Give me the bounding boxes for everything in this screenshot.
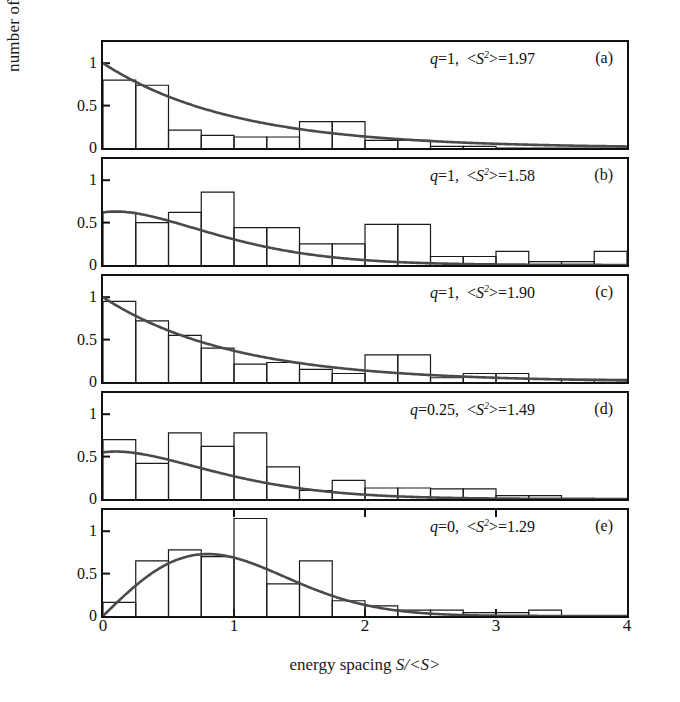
panel-annotation: q=0.25, <S2>=1.49 — [410, 400, 535, 419]
x-axis-label-symbol: S/<S> — [396, 655, 441, 674]
histogram-bar — [365, 355, 398, 382]
histogram-bar — [398, 355, 431, 382]
panel-plot-area — [103, 393, 627, 499]
plot-panel-a: q=1, <S2>=1.97(a) — [101, 40, 629, 150]
panel-annotation: q=1, <S2>=1.97 — [430, 49, 535, 68]
histogram-bar — [300, 122, 333, 148]
histogram-bar — [201, 348, 234, 382]
histogram-bar — [463, 146, 496, 148]
histogram-bar — [431, 146, 464, 148]
histogram-bar — [234, 137, 267, 148]
y-tick-label: 0 — [59, 256, 97, 274]
histogram-bar — [201, 192, 234, 265]
histogram-bar — [267, 137, 300, 148]
y-tick-label: 1 — [59, 54, 97, 72]
y-tick-label: 1 — [59, 288, 97, 306]
histogram-bar — [267, 228, 300, 265]
y-tick-label: 1 — [59, 171, 97, 189]
annotation-s2-symbol: <S2> — [467, 50, 498, 67]
panel-plot-area — [103, 159, 627, 265]
y-tick-labels: 00.51 — [55, 508, 97, 618]
y-tick-label: 0 — [59, 139, 97, 157]
plot-panel-e: q=0, <S2>=1.29(e) — [101, 508, 629, 618]
y-tick-label: 0 — [59, 490, 97, 508]
histogram-bar — [234, 433, 267, 499]
histogram-bar — [234, 364, 267, 382]
annotation-q-value: =0.25, — [418, 401, 467, 418]
histogram-bar — [267, 362, 300, 382]
plot-panel-d: q=0.25, <S2>=1.49(d) — [101, 391, 629, 501]
histogram-bar — [496, 251, 529, 265]
histogram-bar — [103, 602, 136, 616]
plot-panel-c: q=1, <S2>=1.90(c) — [101, 274, 629, 384]
annotation-s2-value: =1.97 — [498, 50, 535, 67]
histogram-bar — [267, 584, 300, 616]
annotation-s2-symbol: <S2> — [467, 401, 498, 418]
annotation-q-symbol: q — [430, 50, 438, 67]
y-tick-label: 0.5 — [59, 448, 97, 466]
annotation-q-value: =1, — [438, 50, 467, 67]
histogram-bars — [103, 518, 627, 616]
x-tick-label: 3 — [492, 616, 501, 636]
annotation-s2-value: =1.49 — [498, 401, 535, 418]
histogram-bar — [332, 244, 365, 265]
panel-tag: (a) — [595, 49, 613, 67]
panel-annotation: q=1, <S2>=1.90 — [430, 283, 535, 302]
histogram-bar — [300, 369, 333, 382]
histogram-bar — [332, 374, 365, 382]
annotation-q-symbol: q — [430, 167, 438, 184]
y-tick-label: 1 — [59, 405, 97, 423]
y-tick-labels: 00.51 — [55, 391, 97, 501]
x-axis-label: energy spacing S/<S> — [101, 655, 629, 675]
annotation-q-symbol: q — [430, 284, 438, 301]
histogram-bar — [201, 557, 234, 616]
histogram-bar — [431, 378, 464, 382]
annotation-q-symbol: q — [430, 518, 438, 535]
panel-plot-area — [103, 42, 627, 148]
panel-tag: (e) — [595, 517, 613, 535]
x-tick-label: 0 — [99, 616, 108, 636]
histogram-bars — [103, 192, 627, 265]
annotation-s2-value: =1.90 — [498, 284, 535, 301]
plot-panel-b: q=1, <S2>=1.58(b) — [101, 157, 629, 267]
histogram-bar — [103, 80, 136, 148]
histogram-bar — [169, 130, 202, 148]
histogram-bar — [300, 561, 333, 616]
histogram-bar — [136, 321, 169, 382]
annotation-s2-symbol: <S2> — [467, 284, 498, 301]
panel-plot-area — [103, 510, 627, 616]
panel-tag: (b) — [594, 166, 613, 184]
histogram-bar — [103, 440, 136, 499]
panel-tag: (c) — [595, 283, 613, 301]
histogram-bar — [365, 224, 398, 265]
histogram-bar — [103, 212, 136, 265]
histogram-bar — [136, 561, 169, 616]
histogram-bar — [169, 550, 202, 616]
histogram-bar — [365, 140, 398, 148]
y-tick-labels: 00.51 — [55, 274, 97, 384]
y-tick-label: 1 — [59, 522, 97, 540]
histogram-bar — [201, 135, 234, 148]
annotation-s2-symbol: <S2> — [467, 167, 498, 184]
y-tick-label: 0 — [59, 373, 97, 391]
panel-plot-area — [103, 276, 627, 382]
annotation-q-symbol: q — [410, 401, 418, 418]
y-tick-labels: 00.51 — [55, 40, 97, 150]
histogram-bar — [398, 224, 431, 265]
y-tick-label: 0.5 — [59, 331, 97, 349]
histogram-bar — [169, 335, 202, 382]
histogram-bar — [136, 463, 169, 499]
histogram-bar — [594, 251, 627, 265]
histogram-bar — [169, 212, 202, 265]
x-tick-label: 4 — [623, 616, 632, 636]
annotation-s2-value: =1.29 — [498, 518, 535, 535]
y-tick-label: 0 — [59, 607, 97, 625]
annotation-s2-symbol: <S2> — [467, 518, 498, 535]
annotation-q-value: =1, — [438, 167, 467, 184]
panel-annotation: q=0, <S2>=1.29 — [430, 517, 535, 536]
panel-annotation: q=1, <S2>=1.58 — [430, 166, 535, 185]
x-axis-label-prefix: energy spacing — [289, 655, 395, 674]
y-tick-label: 0.5 — [59, 565, 97, 583]
annotation-q-value: =0, — [438, 518, 467, 535]
x-tick-label: 2 — [361, 616, 370, 636]
